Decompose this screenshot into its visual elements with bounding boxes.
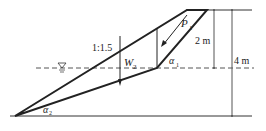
angle-a1-sub: 1 — [176, 62, 179, 68]
force-p1-label: P — [180, 17, 188, 29]
dim-4m-label: 4 m — [234, 55, 250, 66]
slope-ratio-label: 1:1.5 — [92, 42, 112, 53]
dim-2m-label: 2 m — [195, 35, 211, 46]
angle-a1-label: α — [169, 55, 175, 66]
weight-w2-sub: 2 — [133, 63, 137, 71]
slope-diagram: 1:1.5 P 1 W 2 α 1 α 2 2 m 4 m — [0, 0, 266, 131]
angle-a2-sub: 2 — [49, 110, 52, 116]
arrowhead-icon — [118, 79, 122, 86]
force-p1-sub: 1 — [189, 24, 193, 32]
